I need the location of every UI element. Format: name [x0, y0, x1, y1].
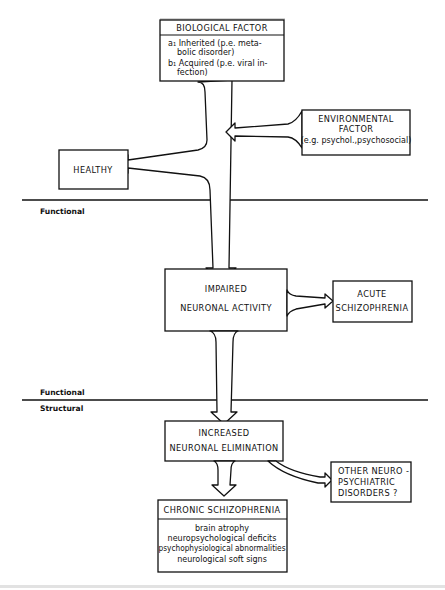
level-label-functional-top: Functional: [40, 207, 85, 216]
level-label-structural: Structural: [40, 404, 83, 413]
other-question: DISORDERS ?: [338, 488, 398, 498]
environmental-factor-title: ENVIRONMENTAL: [318, 114, 394, 124]
increased-neuronal-elimination-box: INCREASED NEURONAL ELIMINATION: [165, 421, 283, 461]
increased-to-other-arrow: [268, 461, 332, 487]
impaired-title: IMPAIRED: [205, 284, 247, 294]
acute-title: ACUTE: [357, 289, 386, 299]
biological-factor-line: b₁ Acquired (p.e. viral in-: [168, 59, 268, 68]
chronic-schizophrenia-box: CHRONIC SCHIZOPHRENIA brain atrophy neur…: [158, 500, 287, 572]
chronic-title: CHRONIC SCHIZOPHRENIA: [164, 505, 281, 515]
healthy-label: HEALTHY: [73, 165, 113, 175]
impaired-neuronal-activity-box: IMPAIRED NEURONAL ACTIVITY: [165, 269, 287, 331]
chronic-symptom: psychophysiological abnormalities: [159, 544, 286, 553]
other-subtitle: PSYCHIATRIC: [338, 477, 395, 487]
environmental-factor-box: ENVIRONMENTAL FACTOR (e.g. psychol.,psyc…: [301, 110, 412, 155]
healthy-box: HEALTHY: [59, 150, 128, 189]
biological-factor-line: a₁ Inherited (p.e. meta-: [168, 39, 262, 48]
biological-factor-line: bolic disorder): [177, 48, 234, 57]
increased-to-chronic-arrow: [212, 461, 236, 496]
impaired-to-acute-arrow: [287, 290, 333, 316]
schizophrenia-model-diagram: Functional Functional Structural BIOLOGI…: [0, 0, 445, 590]
biological-factor-title: BIOLOGICAL FACTOR: [176, 23, 268, 33]
environmental-to-trunk-arrow: [226, 111, 302, 148]
increased-title: INCREASED: [199, 428, 250, 438]
environmental-factor-example: (e.g. psychol.,psychosocial): [301, 136, 412, 145]
other-title: OTHER NEURO -: [338, 466, 409, 476]
environmental-factor-subtitle: FACTOR: [339, 124, 374, 134]
cut-off-caption-strip: [0, 585, 445, 588]
chronic-symptom: brain atrophy: [195, 524, 249, 533]
biological-factor-box: BIOLOGICAL FACTOR a₁ Inherited (p.e. met…: [160, 20, 284, 81]
level-label-functional-bottom: Functional: [40, 388, 85, 397]
impaired-to-increased-arrow: [210, 331, 238, 424]
impaired-subtitle: NEURONAL ACTIVITY: [180, 303, 272, 313]
chronic-symptom: neurological soft signs: [177, 555, 267, 564]
biological-to-healthy-arrow: [118, 80, 236, 280]
increased-subtitle: NEURONAL ELIMINATION: [169, 443, 278, 453]
other-disorders-box: OTHER NEURO - PSYCHIATRIC DISORDERS ?: [331, 462, 411, 502]
chronic-symptom: neuropsychological deficits: [168, 534, 277, 543]
acute-subtitle: SCHIZOPHRENIA: [336, 303, 409, 313]
acute-schizophrenia-box: ACUTE SCHIZOPHRENIA: [333, 281, 412, 322]
biological-factor-line: fection): [177, 68, 208, 77]
